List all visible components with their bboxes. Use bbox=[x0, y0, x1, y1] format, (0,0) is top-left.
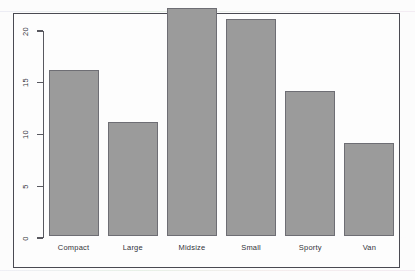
x-axis-category-label: Compact bbox=[58, 243, 89, 252]
plot-area: 05101520 CompactLargeMidsizeSmallSportyV… bbox=[14, 14, 399, 267]
y-axis-tick-label-text: 10 bbox=[20, 130, 29, 139]
y-axis-tick bbox=[37, 82, 43, 83]
y-axis-tick bbox=[37, 134, 43, 135]
y-axis-tick-label-text: 5 bbox=[20, 184, 29, 188]
bar-van[interactable] bbox=[344, 143, 394, 236]
bar-group[interactable]: Small bbox=[226, 19, 276, 236]
x-axis-category-label: Sporty bbox=[299, 243, 322, 252]
bars-layer: CompactLargeMidsizeSmallSportyVan bbox=[44, 14, 399, 267]
y-axis-tick-label: 20 bbox=[16, 26, 34, 36]
y-axis-tick-label: 5 bbox=[16, 181, 34, 191]
y-axis-tick-label: 15 bbox=[16, 78, 34, 88]
y-axis-tick-label: 0 bbox=[16, 233, 34, 243]
plot-frame: 05101520 CompactLargeMidsizeSmallSportyV… bbox=[13, 13, 400, 268]
x-axis-category-label: Small bbox=[241, 243, 261, 252]
x-axis-category-label: Large bbox=[123, 243, 143, 252]
y-axis-tick bbox=[37, 186, 43, 187]
y-axis-tick-label-text: 20 bbox=[20, 27, 29, 36]
bar-compact[interactable] bbox=[49, 70, 99, 236]
bar-group[interactable]: Sporty bbox=[285, 91, 335, 236]
bar-sporty[interactable] bbox=[285, 91, 335, 236]
y-axis-tick-label-text: 15 bbox=[20, 78, 29, 87]
page-canvas: 05101520 CompactLargeMidsizeSmallSportyV… bbox=[0, 0, 415, 280]
bar-group[interactable]: Compact bbox=[49, 70, 99, 236]
y-axis-tick-label: 10 bbox=[16, 130, 34, 140]
y-axis-tick bbox=[37, 237, 43, 238]
bar-group[interactable]: Van bbox=[344, 143, 394, 236]
bar-midsize[interactable] bbox=[167, 8, 217, 236]
scan-artifact-bottom bbox=[0, 270, 415, 271]
bar-group[interactable]: Midsize bbox=[167, 8, 217, 236]
y-axis-tick-label-text: 0 bbox=[20, 236, 29, 240]
bar-group[interactable]: Large bbox=[108, 122, 158, 236]
x-axis-category-label: Midsize bbox=[178, 243, 205, 252]
y-axis-tick bbox=[37, 30, 43, 31]
bar-small[interactable] bbox=[226, 19, 276, 236]
x-axis-category-label: Van bbox=[363, 243, 376, 252]
bar-large[interactable] bbox=[108, 122, 158, 236]
